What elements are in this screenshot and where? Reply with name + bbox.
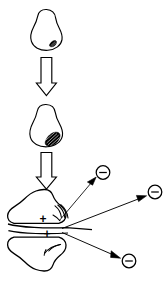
negative-charge-upper (96, 166, 110, 180)
positive-charge-lower-lobe: + (43, 227, 50, 241)
progression-diagram-canvas: + + (0, 0, 167, 284)
negative-charge-lower (122, 254, 136, 268)
figure-root: Stage progression diagram (0, 0, 167, 284)
negative-charge-right (148, 185, 162, 199)
positive-charge-upper-lobe: + (39, 212, 46, 226)
